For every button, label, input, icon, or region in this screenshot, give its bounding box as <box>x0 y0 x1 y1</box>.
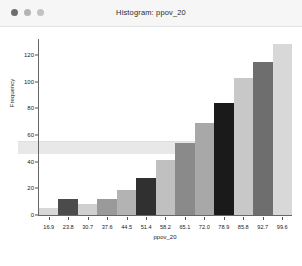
histogram-bar <box>273 44 292 215</box>
histogram-bar <box>195 123 214 215</box>
histogram-bar <box>117 190 136 215</box>
x-tick-label: 37.6 <box>102 224 113 230</box>
y-tick-label: 0 <box>31 212 34 218</box>
y-tick-label: 120 <box>24 52 34 58</box>
histogram-bar <box>214 103 233 215</box>
x-tick-mark <box>263 217 264 220</box>
x-tick-mark <box>282 217 283 220</box>
y-tick-label: 100 <box>24 79 34 85</box>
x-tick-mark <box>88 217 89 220</box>
x-axis-line <box>38 215 292 216</box>
histogram-chart: Frequency 020406080100120 16.923.830.737… <box>0 27 302 241</box>
x-tick-mark <box>185 217 186 220</box>
histogram-bar <box>39 208 58 215</box>
histogram-bar <box>175 143 194 215</box>
histogram-window: Histogram: ppov_20 Frequency 02040608010… <box>0 0 302 266</box>
x-tick-label: 92.7 <box>257 224 268 230</box>
x-tick-label: 58.2 <box>160 224 171 230</box>
histogram-bar <box>78 204 97 215</box>
x-tick-label: 51.4 <box>141 224 152 230</box>
y-tick-label: 80 <box>27 105 34 111</box>
x-tick-mark <box>243 217 244 220</box>
histogram-bar <box>234 78 253 215</box>
x-tick-mark <box>204 217 205 220</box>
histogram-bar <box>58 199 77 215</box>
y-axis-label: Frequency <box>9 63 15 123</box>
y-axis-ticks: 020406080100120 <box>18 27 34 241</box>
window-titlebar: Histogram: ppov_20 <box>0 0 302 27</box>
x-tick-mark <box>107 217 108 220</box>
x-axis-label: ppov_20 <box>38 234 292 240</box>
x-tick-mark <box>146 217 147 220</box>
x-tick-label: 78.9 <box>218 224 229 230</box>
x-tick-label: 85.8 <box>238 224 249 230</box>
histogram-bar <box>97 199 116 215</box>
histogram-bar <box>156 160 175 215</box>
x-tick-mark <box>127 217 128 220</box>
plot-area: Frequency 020406080100120 16.923.830.737… <box>0 27 302 139</box>
x-tick-label: 65.1 <box>179 224 190 230</box>
x-tick-label: 99.6 <box>277 224 288 230</box>
x-tick-label: 44.5 <box>121 224 132 230</box>
x-tick-mark <box>49 217 50 220</box>
x-tick-label: 16.9 <box>43 224 54 230</box>
x-tick-label: 72.0 <box>199 224 210 230</box>
y-tick-label: 60 <box>27 132 34 138</box>
x-tick-label: 30.7 <box>82 224 93 230</box>
x-tick-mark <box>165 217 166 220</box>
window-title: Histogram: ppov_20 <box>0 8 302 17</box>
x-tick-mark <box>68 217 69 220</box>
x-tick-mark <box>224 217 225 220</box>
x-tick-label: 23.8 <box>63 224 74 230</box>
y-tick-label: 40 <box>27 159 34 165</box>
bar-series <box>39 39 292 215</box>
y-tick-label: 20 <box>27 185 34 191</box>
histogram-bar <box>136 178 155 215</box>
histogram-bar <box>253 62 272 215</box>
